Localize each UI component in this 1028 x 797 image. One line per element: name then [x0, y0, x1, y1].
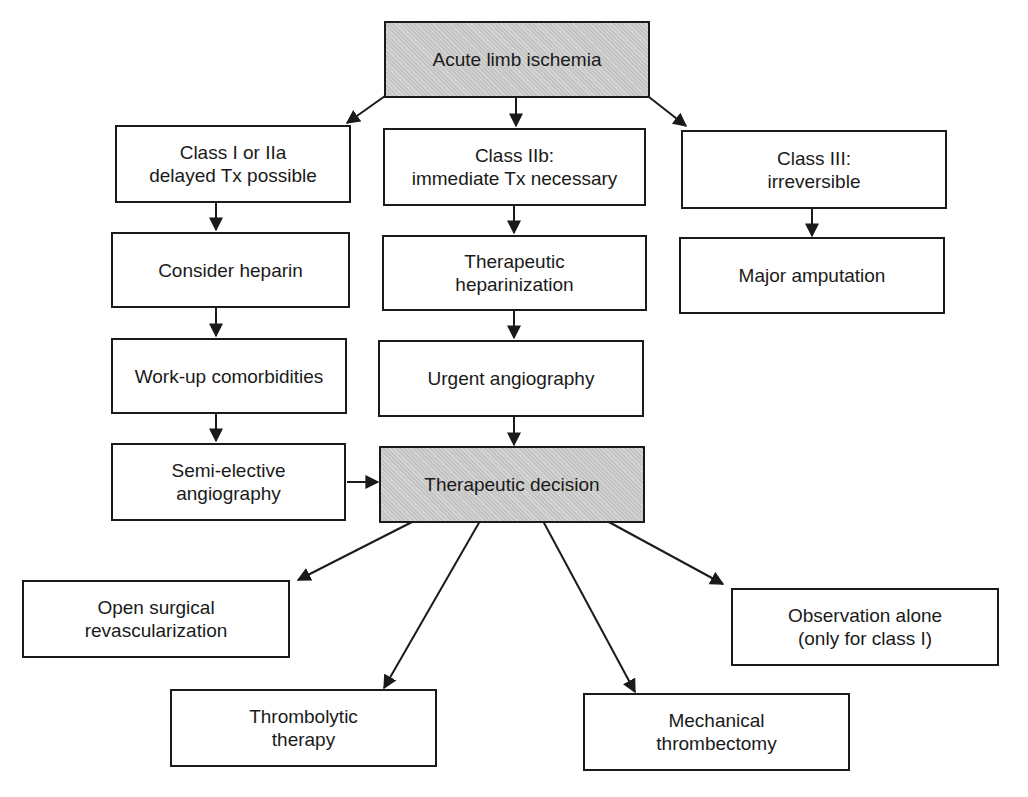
node-label: Therapeutic decision [424, 473, 599, 496]
node-label-line-1: Semi-elective [171, 459, 285, 482]
arrow-decision-to-mechanical [543, 521, 635, 692]
node-label-line-2: (only for class I) [788, 627, 942, 650]
arrow-decision-to-open-surgical [298, 521, 414, 580]
node-label-line-1: Class I or IIa [149, 141, 317, 164]
node-class-i-iia: Class I or IIadelayed Tx possible [115, 125, 351, 203]
node-label-line-1: Class IIb: [412, 144, 618, 167]
node-acute-limb-ischemia: Acute limb ischemia [384, 21, 650, 98]
node-label-line-2: therapy [249, 728, 358, 751]
node-label: Consider heparin [158, 259, 303, 282]
node-class-iii: Class III:irreversible [681, 130, 947, 209]
node-workup-comorbidities: Work-up comorbidities [111, 338, 347, 414]
node-open-surgical-revascularization: Open surgicalrevascularization [22, 580, 290, 658]
node-label-line-1: Open surgical [85, 596, 228, 619]
node-urgent-angiography: Urgent angiography [378, 340, 644, 417]
node-class-iib: Class IIb:immediate Tx necessary [383, 128, 646, 206]
node-label-line-2: revascularization [85, 619, 228, 642]
node-label-line-1: Thrombolytic [249, 705, 358, 728]
node-consider-heparin: Consider heparin [111, 232, 350, 308]
node-label: Urgent angiography [428, 367, 595, 390]
node-mechanical-thrombectomy: Mechanicalthrombectomy [583, 693, 850, 771]
node-label-line-2: irreversible [768, 170, 861, 193]
arrow-decision-to-thrombolytic [384, 521, 480, 688]
node-label-line-2: immediate Tx necessary [412, 167, 618, 190]
node-therapeutic-heparinization: Therapeuticheparinization [382, 235, 647, 311]
node-label-line-2: delayed Tx possible [149, 164, 317, 187]
node-semi-elective-angiography: Semi-electiveangiography [111, 443, 346, 521]
node-label-line-2: thrombectomy [656, 732, 776, 755]
node-label: Major amputation [739, 264, 886, 287]
node-label-line-1: Therapeutic [455, 250, 573, 273]
node-label-line-1: Class III: [768, 147, 861, 170]
node-major-amputation: Major amputation [679, 237, 945, 314]
node-label-line-2: heparinization [455, 273, 573, 296]
node-label-line-1: Observation alone [788, 604, 942, 627]
node-thrombolytic-therapy: Thrombolytictherapy [170, 689, 437, 767]
arrow-decision-to-observation [607, 521, 723, 584]
arrow-root-to-class-iii [649, 97, 686, 126]
node-label: Acute limb ischemia [433, 48, 602, 71]
node-observation-alone: Observation alone(only for class I) [731, 588, 999, 666]
node-label: Work-up comorbidities [135, 365, 324, 388]
node-label-line-1: Mechanical [656, 709, 776, 732]
arrow-root-to-class-i-iia [347, 96, 385, 123]
node-therapeutic-decision: Therapeutic decision [379, 446, 645, 523]
node-label-line-2: angiography [171, 482, 285, 505]
